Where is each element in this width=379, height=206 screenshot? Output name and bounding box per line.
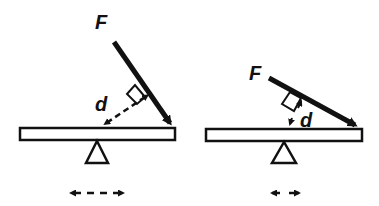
right-pivot-triangle: [272, 142, 296, 163]
left-lever-arm-label: d: [95, 93, 108, 115]
right-force-label: F: [249, 62, 262, 84]
right-lever-arm-label: d: [300, 109, 313, 131]
left-force-arrow: [114, 42, 170, 123]
right-panel: F d: [206, 62, 362, 193]
left-panel: F d: [20, 11, 175, 193]
left-force-label: F: [95, 11, 108, 33]
left-beam: [20, 128, 175, 140]
left-right-angle-marker: [127, 85, 145, 104]
right-beam: [206, 129, 362, 141]
torque-diagram: F d F d: [0, 0, 379, 206]
right-lever-arm-bottom: [290, 118, 292, 124]
left-pivot-triangle: [86, 141, 108, 163]
diagram-svg: F d F d: [0, 0, 379, 206]
